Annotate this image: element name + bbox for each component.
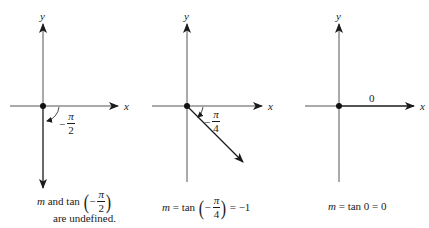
x-axis-label: x [124,101,129,112]
y-axis-label: y [40,11,45,22]
angle-label: − π 2 [59,111,75,136]
minus-sign: − [204,116,210,128]
denominator: 2 [68,124,74,136]
angle-label: − π 4 [204,109,220,134]
paren-open: ( [83,192,88,212]
angle-arc [198,107,203,117]
numerator: π [67,111,75,124]
caption-result: = −1 [227,202,250,213]
origin-point [184,103,190,109]
numerator: π [97,189,105,202]
caption-text: = tan 0 = 0 [336,201,387,212]
y-axis-label: y [336,11,341,22]
denominator: 4 [214,208,220,220]
minus-sign: − [59,118,65,130]
panel-horizontal [305,24,414,182]
caption-text: = tan [170,202,198,213]
paren-close: ) [221,198,226,218]
panel-diagonal [152,24,262,182]
numerator: π [213,195,221,208]
slope-var: m [162,202,170,213]
minus-sign: − [89,196,95,207]
caption-diagonal: m = tan ( − π 4 ) = −1 [162,195,250,220]
caption-vertical: m and tan ( − π 2 ) [37,189,112,214]
caption-horizontal: m = tan 0 = 0 [328,201,387,212]
minus-sign: − [205,202,211,213]
origin-point [40,103,46,109]
caption-frac: − π 2 [89,189,105,214]
x-axis-label: x [420,101,425,112]
angle-label: 0 [369,93,375,104]
denominator: 4 [213,122,219,134]
slope-var: m [37,196,45,207]
x-axis-label: x [268,101,273,112]
paren-open: ( [199,198,204,218]
panel-vertical [10,24,118,188]
caption-frac: − π 4 [205,195,221,220]
y-axis-label: y [184,11,189,22]
numerator: π [212,109,220,122]
origin-point [336,103,342,109]
angle-arc [47,107,59,121]
caption-text: and tan [45,196,83,207]
caption-line2: are undefined. [53,212,116,224]
paren-close: ) [106,192,111,212]
slope-var: m [328,201,336,212]
